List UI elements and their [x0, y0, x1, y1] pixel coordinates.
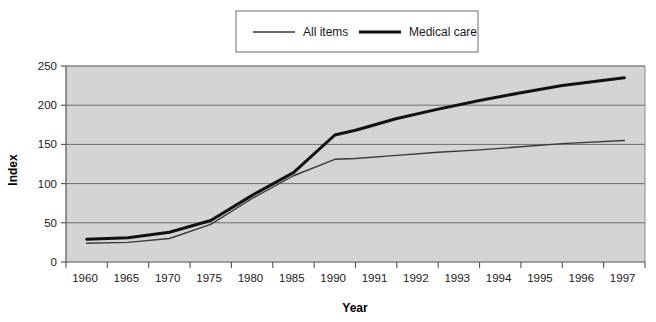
x-tick-label: 1960 [72, 272, 98, 284]
y-axis: 050100150200250 [38, 60, 66, 268]
x-tick-label: 1994 [486, 272, 512, 284]
x-tick-label: 1992 [403, 272, 429, 284]
y-tick-label: 250 [38, 60, 57, 72]
legend-label-medical-care: Medical care [409, 25, 477, 39]
x-tick-label: 1995 [527, 272, 553, 284]
y-tick-label: 100 [38, 178, 57, 190]
x-tick-label: 1985 [279, 272, 305, 284]
x-tick-label: 1975 [196, 272, 222, 284]
x-tick-label: 1990 [320, 272, 346, 284]
plot-area-background [66, 66, 645, 262]
legend-label-all-items: All items [303, 25, 348, 39]
x-axis-title: Year [342, 301, 368, 315]
chart-figure: All items Medical care 050100150200250 1… [0, 0, 656, 322]
y-tick-label: 50 [44, 217, 57, 229]
line-chart: All items Medical care 050100150200250 1… [0, 0, 656, 322]
chart-legend: All items Medical care [236, 11, 478, 52]
x-tick-label: 1993 [444, 272, 470, 284]
x-tick-label: 1970 [155, 272, 181, 284]
y-tick-label: 200 [38, 99, 57, 111]
x-tick-label: 1965 [114, 272, 140, 284]
x-tick-label: 1991 [362, 272, 388, 284]
y-axis-title: Index [6, 154, 20, 186]
x-axis: 1960196519701975198019851990199119921993… [66, 262, 645, 284]
y-tick-label: 150 [38, 138, 57, 150]
x-tick-label: 1996 [568, 272, 594, 284]
x-tick-label: 1980 [238, 272, 264, 284]
y-tick-label: 0 [51, 256, 57, 268]
x-tick-label: 1997 [610, 272, 636, 284]
